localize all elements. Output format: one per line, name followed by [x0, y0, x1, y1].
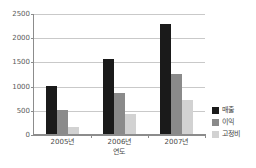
legend-swatch-icon: [212, 107, 219, 114]
x-axis-tick-label: 2006년: [108, 139, 132, 146]
legend-label: 이익: [222, 119, 234, 126]
y-axis-tick-label: 2000: [12, 35, 30, 42]
y-axis-tick-label: 2500: [12, 11, 30, 18]
bar: [68, 127, 79, 134]
bar: [46, 86, 57, 134]
y-axis-tick-label: 1500: [12, 59, 30, 66]
plot-area: 05001000150020002500 2005년2006년2007년: [33, 14, 205, 135]
legend-swatch-icon: [212, 119, 219, 126]
bar-chart: 05001000150020002500 2005년2006년2007년 연도 …: [0, 0, 256, 168]
x-axis-tick-mark: [205, 134, 206, 138]
bar: [125, 114, 136, 134]
bar: [114, 93, 125, 134]
y-axis-tick-mark: [31, 135, 34, 136]
bar: [182, 100, 193, 134]
y-axis-tick-label: 1000: [12, 83, 30, 90]
legend-swatch-icon: [212, 131, 219, 138]
bar: [160, 24, 171, 134]
chart-legend: 매출이익고정비: [212, 104, 240, 140]
legend-item[interactable]: 고정비: [212, 128, 240, 140]
x-axis-tick-mark: [91, 134, 92, 138]
x-axis-title: 연도: [33, 149, 205, 156]
legend-label: 고정비: [222, 131, 240, 138]
y-axis-tick-label: 500: [17, 107, 30, 114]
gridline: [34, 135, 205, 136]
bar-group: [91, 14, 148, 134]
y-axis-tick-label: 0: [26, 132, 30, 139]
x-axis-tick-label: 2005년: [51, 139, 75, 146]
bar: [103, 59, 114, 134]
bar-group: [148, 14, 205, 134]
x-axis-tick-mark: [148, 134, 149, 138]
legend-label: 매출: [222, 107, 234, 114]
x-axis-tick-label: 2007년: [165, 139, 189, 146]
legend-item[interactable]: 이익: [212, 116, 240, 128]
bar-group: [34, 14, 91, 134]
legend-item[interactable]: 매출: [212, 104, 240, 116]
bar-groups: [34, 14, 205, 134]
bar: [57, 110, 68, 134]
bar: [171, 74, 182, 135]
